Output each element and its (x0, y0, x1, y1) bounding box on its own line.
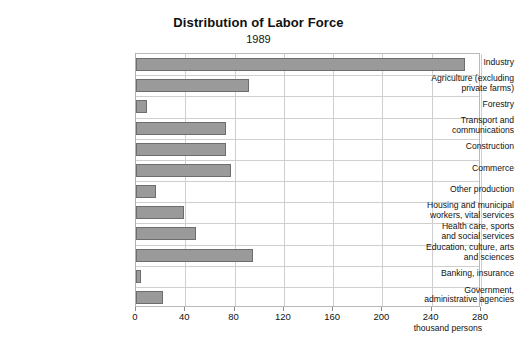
x-tick-label: 280 (460, 311, 500, 322)
gridline-vertical (382, 54, 383, 306)
category-label: Construction (387, 142, 517, 152)
bar (136, 270, 141, 283)
category-label: Banking, insurance (387, 269, 517, 279)
x-axis-unit-label: thousand persons (322, 323, 482, 333)
x-tick-label: 160 (312, 311, 352, 322)
gridline-horizontal (136, 160, 479, 161)
bar (136, 206, 184, 219)
x-tick-label: 40 (164, 311, 204, 322)
category-label: Commerce (387, 164, 517, 174)
category-label: Industry (387, 58, 517, 68)
gridline-horizontal (136, 139, 479, 140)
category-label: Forestry (387, 100, 517, 110)
category-label: Housing and municipal workers, vital ser… (387, 201, 517, 220)
gridline-horizontal (136, 181, 479, 182)
category-label: Agriculture (excluding private farms) (387, 74, 517, 93)
bar (136, 185, 156, 198)
gridline-vertical (333, 54, 334, 306)
gridline-horizontal (136, 266, 479, 267)
bar (136, 143, 226, 156)
bar (136, 227, 196, 240)
bar (136, 100, 147, 113)
category-label: Government, administrative agencies (387, 286, 517, 305)
gridline-vertical (284, 54, 285, 306)
labor-force-bar-chart: Distribution of Labor Force 1989 Industr… (0, 0, 517, 348)
category-label: Education, culture, arts and sciences (387, 243, 517, 262)
gridline-horizontal (136, 96, 479, 97)
category-label: Health care, sports and social services (387, 222, 517, 241)
x-tick-label: 80 (214, 311, 254, 322)
bar (136, 164, 231, 177)
category-label: Transport and communications (387, 116, 517, 135)
bar (136, 122, 226, 135)
x-tick-label: 0 (115, 311, 155, 322)
chart-title: Distribution of Labor Force (0, 15, 517, 30)
bar (136, 249, 253, 262)
chart-subtitle: 1989 (0, 33, 517, 45)
x-tick-label: 240 (411, 311, 451, 322)
category-label: Other production (387, 185, 517, 195)
bar (136, 291, 163, 304)
x-tick-label: 120 (263, 311, 303, 322)
x-tick-label: 200 (361, 311, 401, 322)
bar (136, 79, 249, 92)
